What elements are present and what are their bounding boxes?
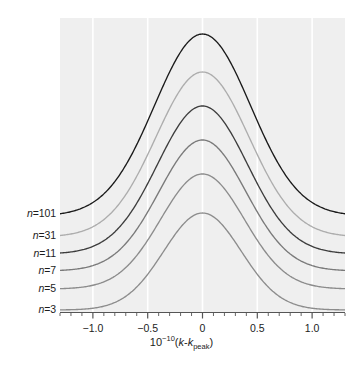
series-label-n-101: n=101 xyxy=(27,208,56,219)
x-tick-label: 0 xyxy=(200,323,206,334)
x-tick-label: −0.5 xyxy=(137,323,158,334)
series-label-value: =101 xyxy=(33,207,56,219)
series-label-value: =11 xyxy=(39,247,56,259)
series-label-n-3: n=3 xyxy=(38,304,56,315)
axis-title-subscript: peak xyxy=(193,342,209,351)
axis-title-base: 10 xyxy=(150,336,162,348)
series-label-value: =7 xyxy=(44,264,56,276)
series-label-value: =31 xyxy=(38,229,56,241)
x-tick-label: −1.0 xyxy=(83,323,104,334)
x-axis-title: 10−10(k-kpeak) xyxy=(0,337,363,348)
series-label-column: n=101n=31n=11n=7n=5n=3 xyxy=(0,0,56,366)
series-label-value: =3 xyxy=(44,303,56,315)
plot-svg xyxy=(60,18,345,312)
series-label-value: =5 xyxy=(44,282,56,294)
x-tick-label: 0.5 xyxy=(250,323,265,334)
series-label-n-11: n=11 xyxy=(34,248,56,259)
series-label-n-7: n=7 xyxy=(38,265,56,276)
series-label-n-5: n=5 xyxy=(38,283,56,294)
x-tick-label: 1.0 xyxy=(305,323,320,334)
x-axis-ticks xyxy=(60,313,345,319)
series-label-n-31: n=31 xyxy=(33,230,56,241)
axis-title-exponent: −10 xyxy=(162,334,175,343)
plot-panel xyxy=(60,18,345,312)
axis-title-close-paren: ) xyxy=(209,336,213,348)
figure-container: n=101n=31n=11n=7n=5n=3 −1.0−0.500.51.0 1… xyxy=(0,0,363,366)
